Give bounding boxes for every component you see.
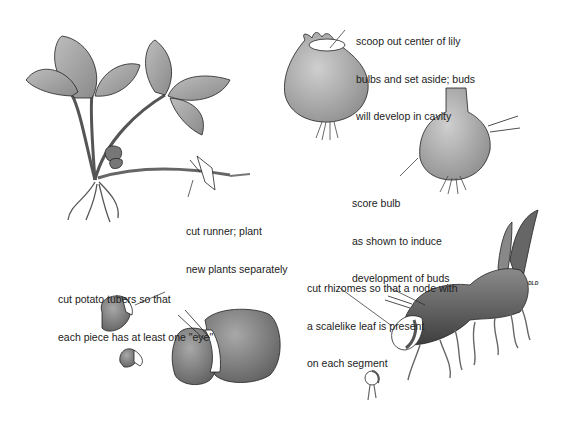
label-line: scoop out center of lily	[356, 35, 475, 48]
label-line: cut rhizomes so that a node with	[307, 282, 458, 295]
label-line: on each segment	[307, 357, 458, 370]
lily-scoop-label: scoop out center of lily bulbs and set a…	[356, 10, 475, 148]
label-line: score bulb	[352, 197, 449, 210]
propagation-diagram: scoop out center of lily bulbs and set a…	[0, 0, 562, 424]
label-line: each piece has at least one "eye"	[58, 331, 213, 344]
label-line: bulbs and set aside; buds	[356, 73, 475, 86]
label-line: will develop in cavity	[356, 110, 475, 123]
artist-signature: DLD	[528, 280, 538, 286]
runner-plant-drawing	[26, 36, 250, 222]
label-line: cut runner; plant	[186, 225, 288, 238]
label-line: as shown to induce	[352, 235, 449, 248]
label-line: cut potato tubers so that	[58, 293, 213, 306]
potato-label: cut potato tubers so that each piece has…	[58, 268, 213, 368]
rhizome-label: cut rhizomes so that a node with a scale…	[307, 257, 458, 395]
label-line: a scalelike leaf is present	[307, 320, 458, 333]
